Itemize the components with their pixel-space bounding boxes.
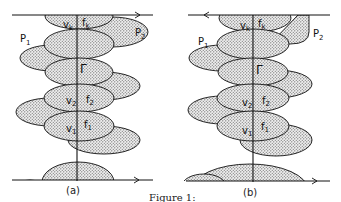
panel-b: vk fk P1 P2 Γ v2 f2 v1 f1 (b) bbox=[182, 4, 330, 202]
label-gamma: Γ bbox=[256, 63, 263, 77]
ellipse-vk bbox=[219, 4, 291, 32]
face-ellipses-a bbox=[12, 3, 148, 202]
ellipse-vk bbox=[45, 3, 113, 29]
ellipse-v2 bbox=[44, 84, 114, 112]
panel-a: vk fk P1 P2 Γ v2 f2 v1 f1 (a) bbox=[12, 3, 153, 202]
figure-canvas: vk fk P1 P2 Γ v2 f2 v1 f1 (a) bbox=[0, 0, 341, 202]
ellipse-v1 bbox=[44, 111, 114, 141]
ellipse bbox=[44, 29, 114, 59]
ellipse-gamma bbox=[45, 58, 113, 86]
label-p1: P1 bbox=[198, 36, 209, 50]
label-p2: P2 bbox=[313, 28, 324, 42]
figure-caption: Figure 1: bbox=[149, 192, 196, 202]
ellipse-bottom bbox=[42, 162, 114, 202]
panel-label-a: (a) bbox=[66, 185, 80, 196]
label-p1: P1 bbox=[20, 33, 31, 47]
ellipse bbox=[12, 180, 48, 200]
panel-label-b: (b) bbox=[243, 187, 257, 198]
label-gamma: Γ bbox=[80, 62, 87, 76]
figure-1: vk fk P1 P2 Γ v2 f2 v1 f1 (a) bbox=[0, 0, 341, 202]
